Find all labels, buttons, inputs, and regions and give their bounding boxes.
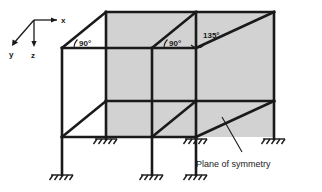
- support-hatch: [262, 139, 266, 144]
- support-hatch: [140, 175, 144, 180]
- support-hatch: [94, 139, 98, 144]
- panel-lower-right: [196, 48, 274, 101]
- support-hatch: [55, 175, 59, 180]
- support-hatch: [99, 139, 103, 144]
- floor-diagonal-left: [62, 101, 106, 137]
- support-hatch: [70, 175, 74, 180]
- support-hatch: [155, 175, 159, 180]
- panel-upper-middle: [106, 12, 196, 48]
- support-hatch: [189, 175, 193, 180]
- y-axis-label: y: [9, 50, 14, 59]
- angle-label-left: 90°: [79, 39, 91, 48]
- x-axis-arrowhead: [51, 17, 57, 22]
- support-hatch: [160, 175, 164, 180]
- support-hatch: [204, 175, 208, 180]
- plane-of-symmetry-label: Plane of symmetry: [196, 159, 271, 169]
- support-hatch: [199, 175, 203, 180]
- z-axis-arrowhead: [31, 41, 36, 47]
- support-hatch: [189, 139, 193, 144]
- shaded-panels: [106, 12, 274, 137]
- structural-frame-figure: x y z: [0, 0, 322, 192]
- z-axis-label: z: [31, 51, 35, 60]
- coordinate-axes: x y z: [9, 16, 66, 60]
- angle-label-middle: 90°: [169, 39, 181, 48]
- support-hatch: [267, 139, 271, 144]
- y-axis-line: [14, 20, 34, 43]
- support-hatch: [65, 175, 69, 180]
- support-hatch: [184, 139, 188, 144]
- support-hatch: [184, 175, 188, 180]
- support-hatch: [204, 139, 208, 144]
- support-hatch: [145, 175, 149, 180]
- angle-label-right: 135°: [203, 31, 220, 40]
- support-hatch: [199, 139, 203, 144]
- support-hatch: [109, 139, 113, 144]
- support-hatch: [277, 139, 281, 144]
- support-hatch: [114, 139, 118, 144]
- support-hatch: [282, 139, 286, 144]
- y-axis-arrowhead: [12, 40, 18, 46]
- support-hatch: [50, 175, 54, 180]
- x-axis-label: x: [61, 16, 66, 25]
